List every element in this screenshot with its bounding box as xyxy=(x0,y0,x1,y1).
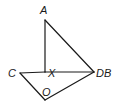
diagram-canvas: A C X DB O xyxy=(0,0,116,105)
geometry-diagram: A C X DB O xyxy=(0,0,116,105)
label-o: O xyxy=(42,86,51,98)
label-x: X xyxy=(47,67,56,79)
label-c: C xyxy=(8,67,16,79)
segment-a-db xyxy=(45,20,94,72)
segment-c-x xyxy=(20,72,45,73)
label-a: A xyxy=(39,4,47,16)
label-db: DB xyxy=(96,67,111,79)
